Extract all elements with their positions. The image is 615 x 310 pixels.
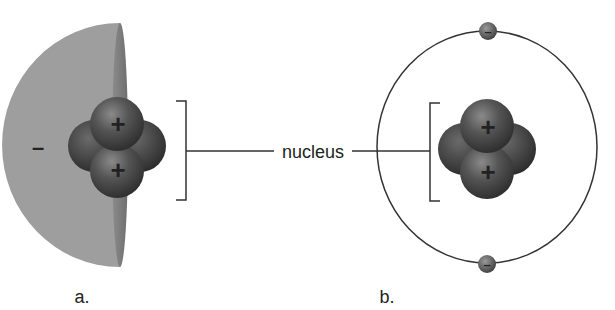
nucleus-label: nucleus	[282, 142, 344, 162]
helium-atom-diagram: – + + a. nucleus + +	[0, 0, 615, 310]
electron-bottom: –	[478, 255, 496, 273]
panel-b: + + – – b.	[352, 22, 597, 307]
nucleus-b: + +	[438, 99, 536, 199]
proton-sign: +	[480, 157, 495, 187]
panel-a-label: a.	[74, 287, 89, 307]
electron-top: –	[479, 22, 497, 40]
electron-sign: –	[484, 24, 491, 39]
bracket-a	[176, 101, 186, 200]
electron-sign: –	[483, 257, 490, 272]
proton-sign: +	[110, 109, 125, 139]
panel-a: – + + a.	[2, 23, 274, 307]
electron-cloud-sign: –	[32, 135, 44, 160]
panel-b-label: b.	[379, 287, 394, 307]
proton-sign: +	[110, 155, 125, 185]
proton-sign: +	[480, 112, 495, 142]
